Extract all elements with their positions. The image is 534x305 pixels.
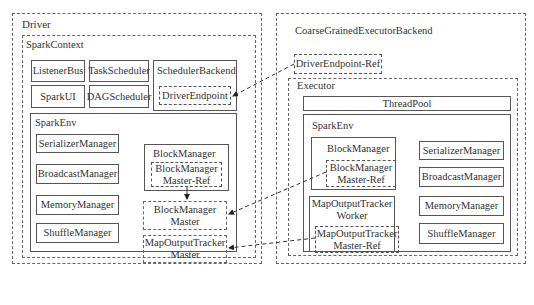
driver-serializer-manager: SerializerManager: [36, 134, 119, 153]
map-output-tracker-master: MapOutputTracker Master: [143, 235, 227, 263]
executor-broadcast-manager: BroadcastManager: [419, 167, 504, 187]
backend-title: CoarseGrainedExecutorBackend: [295, 25, 433, 36]
executor-block-manager-title: BlockManager: [327, 143, 389, 154]
dag-scheduler: DAGScheduler: [89, 85, 149, 108]
executor-shuffle-manager: ShuffleManager: [419, 223, 504, 244]
driver-shuffle-manager: ShuffleManager: [36, 223, 119, 243]
executor-serializer-manager: SerializerManager: [419, 141, 504, 160]
thread-pool: ThreadPool: [303, 96, 511, 111]
driver-endpoint: DriverEndpoint: [159, 86, 231, 105]
driver-endpoint-ref: DriverEndpoint-Ref: [294, 54, 382, 74]
driver-memory-manager: MemoryManager: [36, 195, 119, 215]
executor-title: Executor: [297, 80, 335, 91]
task-scheduler: TaskScheduler: [89, 60, 149, 82]
driver-block-manager-title: BlockManager: [153, 148, 215, 159]
spark-ui: SparkUI: [31, 85, 85, 108]
driver-spark-env-title: SparkEnv: [35, 117, 76, 128]
block-manager-master: BlockManager Master: [143, 201, 227, 230]
scheduler-backend-title: SchedulerBackend: [157, 65, 236, 76]
driver-title: Driver: [22, 18, 51, 30]
executor-block-manager-master-ref: BlockManager Master-Ref: [326, 160, 396, 187]
driver-block-manager-master-ref: BlockManager Master-Ref: [151, 162, 222, 187]
spark-context-title: SparkContext: [26, 39, 84, 50]
driver-broadcast-manager: BroadcastManager: [36, 164, 119, 184]
map-output-tracker-worker-title: MapOutputTracker Worker: [309, 198, 395, 222]
executor-spark-env-title: SparkEnv: [312, 120, 353, 131]
listener-bus: ListenerBus: [31, 60, 85, 82]
executor-memory-manager: MemoryManager: [419, 196, 504, 216]
map-output-tracker-master-ref: MapOutputTracker Master-Ref: [315, 226, 399, 253]
